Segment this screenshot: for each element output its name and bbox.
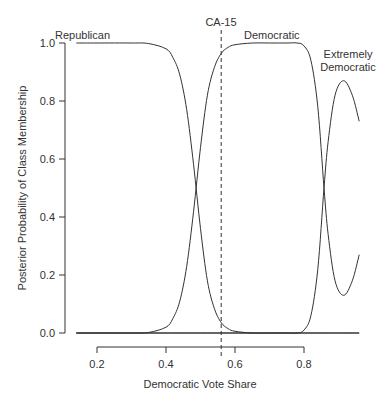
y-axis-title: Posterior Probability of Class Membershi…	[16, 86, 28, 291]
x-axis: 0.20.40.60.8	[89, 347, 311, 370]
label-republican: Republican	[55, 29, 110, 41]
series-extremely-democratic	[76, 81, 359, 334]
label-ca15: CA-15	[205, 16, 236, 28]
chart: 0.00.20.40.60.81.0 0.20.40.60.8 Republic…	[0, 0, 384, 401]
x-tick-label: 0.2	[89, 358, 104, 370]
x-axis-title: Democratic Vote Share	[143, 378, 256, 390]
y-tick-label: 0.6	[40, 153, 55, 165]
x-tick-label: 0.4	[158, 358, 173, 370]
y-tick-label: 1.0	[40, 37, 55, 49]
x-tick-label: 0.6	[227, 358, 242, 370]
label-democratic: Democratic	[244, 29, 300, 41]
series-republican	[76, 43, 359, 333]
y-tick-label: 0.0	[40, 327, 55, 339]
plot-lines	[76, 43, 359, 333]
series-democratic	[76, 43, 359, 333]
y-tick-label: 0.8	[40, 95, 55, 107]
y-axis: 0.00.20.40.60.81.0	[40, 37, 65, 339]
x-tick-label: 0.8	[296, 358, 311, 370]
label-extremely-democratic: Democratic	[320, 61, 376, 73]
y-tick-label: 0.4	[40, 211, 55, 223]
y-tick-label: 0.2	[40, 269, 55, 281]
label-extremely: Extremely	[324, 48, 373, 60]
